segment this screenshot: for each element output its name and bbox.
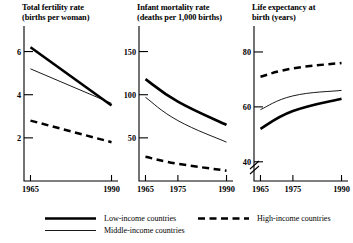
y-tick-label: 4 bbox=[17, 91, 21, 100]
y-tick-label: 150 bbox=[124, 48, 136, 57]
y-tick-label: 40 bbox=[243, 158, 251, 167]
x-tick-label: 1975 bbox=[170, 185, 187, 194]
legend-label: High-income countries bbox=[257, 213, 331, 224]
y-tick-label: 6 bbox=[17, 48, 21, 57]
legend-label: Middle-income countries bbox=[104, 225, 185, 236]
y-tick-label: 80 bbox=[243, 48, 251, 57]
legend: Low-income countries Middle-income count… bbox=[0, 206, 353, 243]
series-line-middle-income bbox=[30, 69, 111, 104]
y-tick-label: 60 bbox=[243, 103, 251, 112]
legend-swatch-dashed bbox=[197, 213, 250, 224]
x-tick-label: 1975 bbox=[285, 185, 302, 194]
y-tick-label: 100 bbox=[124, 91, 136, 100]
legend-swatch-thick-solid bbox=[44, 213, 97, 224]
figure: Total fertility rate (births per woman) … bbox=[0, 0, 353, 243]
x-tick-label: 1965 bbox=[137, 185, 154, 194]
axis-lines bbox=[254, 26, 348, 181]
y-tick-label: 50 bbox=[128, 134, 136, 143]
series-line-low-income bbox=[30, 47, 111, 105]
x-tick-label: 1965 bbox=[252, 185, 269, 194]
chart-panel-total-fertility-rate: Total fertility rate (births per woman) … bbox=[4, 0, 122, 205]
x-tick-label: 1990 bbox=[333, 185, 350, 194]
series-line-high-income bbox=[145, 157, 226, 171]
y-tick-label: 2 bbox=[17, 134, 21, 143]
series-line-high-income bbox=[260, 63, 341, 77]
axis-lines bbox=[24, 26, 118, 181]
series-line-low-income bbox=[145, 79, 226, 125]
x-tick-label: 1965 bbox=[22, 185, 39, 194]
series-line-high-income bbox=[30, 121, 111, 143]
x-tick-label: 1990 bbox=[103, 185, 120, 194]
chart-panel-infant-mortality-rate: Infant mortality rate (deaths per 1,000 … bbox=[119, 0, 237, 205]
x-tick-label: 1990 bbox=[218, 185, 235, 194]
legend-label: Low-income countries bbox=[104, 213, 176, 224]
plot-area-life-expectancy: 406080196519751990 bbox=[234, 0, 352, 205]
plot-area-total-fertility-rate: 24619651990 bbox=[4, 0, 122, 205]
plot-area-infant-mortality-rate: 50100150196519751990 bbox=[119, 0, 237, 205]
legend-swatch-thin-solid bbox=[44, 225, 97, 236]
chart-panel-life-expectancy: Life expectancy at birth (years) 4060801… bbox=[234, 0, 352, 205]
